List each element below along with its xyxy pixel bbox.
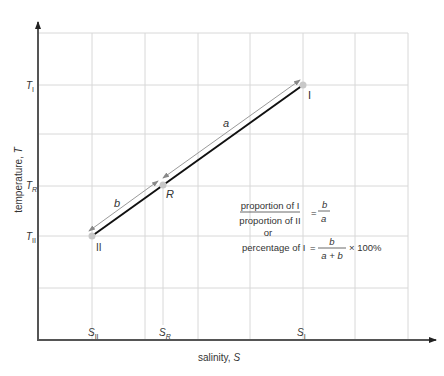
percentage-equals: = xyxy=(310,242,316,253)
svg-text:TII: TII xyxy=(26,231,36,244)
or-label: or xyxy=(264,227,272,238)
t-II-subscript: II xyxy=(32,237,36,244)
s-R-subscript: R xyxy=(166,333,171,340)
ratio-rhs-denominator: a xyxy=(321,213,326,224)
x-tick-labels: SII SR SI xyxy=(88,327,306,340)
s-II-subscript: II xyxy=(95,333,99,340)
segment-b-label: b xyxy=(114,197,120,209)
svg-text:TR: TR xyxy=(26,180,37,193)
y-tick-labels: TI TR TII xyxy=(26,80,37,244)
svg-text:TI: TI xyxy=(26,80,34,93)
point-I-marker xyxy=(300,82,307,89)
x-axis-title: salinity, S xyxy=(198,352,240,363)
percentage-rhs-numerator: b xyxy=(329,236,334,247)
segment-b-dimension xyxy=(89,181,158,231)
point-II-label: II xyxy=(96,242,102,253)
grid xyxy=(38,33,408,340)
svg-text:SR: SR xyxy=(159,327,171,340)
t-I-subscript: I xyxy=(32,86,34,93)
y-axis-title: temperature, T xyxy=(13,146,24,212)
ratio-numerator: proportion of I xyxy=(241,200,300,211)
ratio-equals: = xyxy=(311,207,317,218)
point-R-label: R xyxy=(166,188,174,200)
mixing-equations: proportion of I proportion of II = b a o… xyxy=(239,199,382,261)
point-I-label: I xyxy=(308,89,311,101)
percentage-suffix: × 100% xyxy=(349,242,382,253)
svg-text:SI: SI xyxy=(297,327,306,340)
segment-a-label: a xyxy=(223,117,229,129)
ratio-rhs-numerator: b xyxy=(322,199,327,210)
segment-a-dimension xyxy=(163,80,300,178)
s-I-subscript: I xyxy=(304,333,306,340)
t-R-subscript: R xyxy=(32,186,37,193)
point-II-marker xyxy=(89,233,96,240)
ts-diagram: I R II a b TI TR TII SII SR SI salinity,… xyxy=(0,0,444,376)
svg-text:SII: SII xyxy=(88,327,99,340)
ratio-denominator: proportion of II xyxy=(239,215,300,226)
percentage-lhs: percentage of I xyxy=(242,242,305,253)
percentage-rhs-denominator: a + b xyxy=(321,250,342,261)
